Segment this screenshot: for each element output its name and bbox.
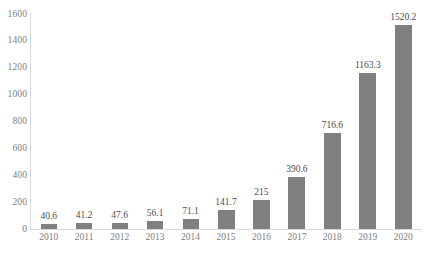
bar-rect[interactable] xyxy=(288,177,305,229)
x-axis-tick-label: 2017 xyxy=(279,233,314,243)
bar-value-label: 716.6 xyxy=(322,121,343,131)
x-axis-line xyxy=(30,229,422,230)
x-axis-tick-label: 2013 xyxy=(137,233,172,243)
bar-rect[interactable] xyxy=(41,224,57,229)
bar-rect[interactable] xyxy=(147,221,163,229)
bar-chart: 02004006008001000120014001600 40.6201041… xyxy=(0,0,428,255)
bar-value-label: 141.7 xyxy=(215,198,236,208)
bar-rect[interactable] xyxy=(359,73,376,229)
y-axis-tick-label: 200 xyxy=(1,198,27,208)
bar-value-label: 41.2 xyxy=(76,211,93,221)
bar-group[interactable]: 41.2 xyxy=(76,211,92,229)
bar-rect[interactable] xyxy=(183,219,199,229)
bar-rect[interactable] xyxy=(253,200,270,229)
bar-group[interactable]: 47.6 xyxy=(112,211,128,229)
bar-rect[interactable] xyxy=(76,223,92,229)
x-axis-tick-label: 2020 xyxy=(386,233,421,243)
x-axis-tick-label: 2018 xyxy=(315,233,350,243)
x-axis-tick-label: 2012 xyxy=(102,233,137,243)
bar-group[interactable]: 141.7 xyxy=(218,198,235,229)
y-axis-tick-label: 800 xyxy=(1,117,27,127)
bar-value-label: 71.1 xyxy=(182,207,199,217)
bar-value-label: 390.6 xyxy=(286,165,307,175)
x-axis-tick-label: 2011 xyxy=(66,233,101,243)
bar-rect[interactable] xyxy=(112,223,128,229)
bar-value-label: 56.1 xyxy=(147,209,164,219)
bar-value-label: 40.6 xyxy=(40,212,57,222)
bar-group[interactable]: 390.6 xyxy=(288,165,305,229)
bar-group[interactable]: 40.6 xyxy=(41,212,57,229)
bar-value-label: 1520.2 xyxy=(390,13,416,23)
bar-group[interactable]: 56.1 xyxy=(147,209,163,229)
y-axis-tick-label: 600 xyxy=(1,144,27,154)
y-axis-tick-label: 0 xyxy=(1,225,27,235)
y-axis-tick-label: 400 xyxy=(1,171,27,181)
bar-rect[interactable] xyxy=(218,210,235,229)
y-axis-tick-label: 1400 xyxy=(1,36,27,46)
bar-value-label: 47.6 xyxy=(111,211,128,221)
bar-group[interactable]: 215 xyxy=(253,188,270,229)
x-axis-tick-label: 2015 xyxy=(208,233,243,243)
y-axis-tick-label: 1200 xyxy=(1,63,27,73)
y-axis-tick-label: 1600 xyxy=(1,10,27,20)
bar-group[interactable]: 716.6 xyxy=(324,121,341,229)
y-axis-tick-label: 1000 xyxy=(1,90,27,100)
y-axis-tick-labels: 02004006008001000120014001600 xyxy=(0,0,27,255)
bar-value-label: 1163.3 xyxy=(355,61,381,71)
bar-group[interactable]: 71.1 xyxy=(183,207,199,229)
bar-rect[interactable] xyxy=(324,133,341,229)
x-axis-tick-label: 2014 xyxy=(173,233,208,243)
bar-group[interactable]: 1520.2 xyxy=(395,13,412,229)
bar-rect[interactable] xyxy=(395,25,412,229)
bar-value-label: 215 xyxy=(254,188,268,198)
bar-group[interactable]: 1163.3 xyxy=(359,61,376,229)
x-axis-tick-label: 2016 xyxy=(244,233,279,243)
x-axis-tick-label: 2010 xyxy=(31,233,66,243)
x-axis-tick-label: 2019 xyxy=(350,233,385,243)
